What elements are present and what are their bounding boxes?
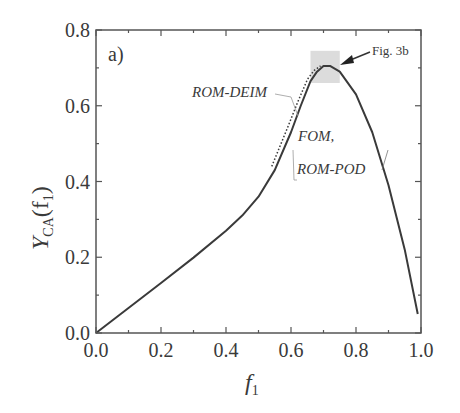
x-tick-label: 0.6	[279, 339, 304, 361]
x-axis-title: f1	[245, 369, 259, 398]
leader-rom-pod-right	[382, 150, 388, 170]
y-tick-label: 0.2	[65, 246, 90, 268]
panel-label: a)	[108, 43, 124, 66]
tick-labels: 0.00.20.40.60.81.00.00.20.40.60.8	[65, 19, 434, 361]
y-tick-label: 0.8	[65, 19, 90, 41]
leader-rom-deim	[275, 94, 298, 116]
annotation-rom-deim: ROM-DEIM	[191, 84, 268, 100]
svg-text:YCA(f1): YCA(f1)	[27, 186, 56, 250]
y-tick-label: 0.4	[65, 171, 90, 193]
annotation-fig-ref: Fig. 3b	[372, 43, 409, 58]
y-tick-label: 0.6	[65, 95, 90, 117]
arrow-head-icon	[340, 55, 354, 65]
annotation-rom-pod: ROM-POD	[296, 161, 365, 177]
y-axis-title: YCA(f1)	[27, 186, 56, 250]
x-tick-label: 0.2	[149, 339, 174, 361]
y-tick-label: 0.0	[65, 322, 90, 344]
x-tick-label: 0.8	[344, 339, 369, 361]
x-tick-label: 1.0	[409, 339, 434, 361]
plot-frame	[96, 30, 421, 333]
x-tick-label: 0.4	[214, 339, 239, 361]
chart-root: 0.00.20.40.60.81.00.00.20.40.60.8 a) ROM…	[0, 0, 460, 413]
series-layer	[96, 66, 418, 333]
ticks	[96, 30, 421, 333]
series-line-0	[96, 66, 418, 333]
annotation-fom: FOM,	[297, 128, 334, 144]
